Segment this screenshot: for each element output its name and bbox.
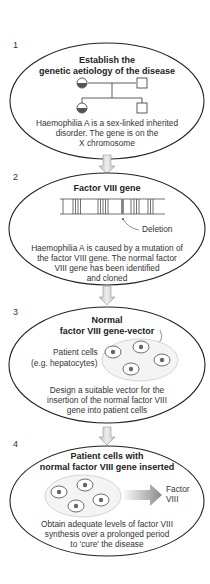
step-description-line: the factor VIII gene. The normal factor [37,253,177,263]
step-title-line: genetic aetiology of the disease [39,66,175,76]
down-arrow-icon [99,286,115,305]
product-label-line: Factor [166,484,190,494]
step-1: 1 Establish the genetic aetiology of the… [10,40,204,159]
down-arrow-icon [99,427,115,445]
step-description-line: Obtain adequate levels of factor VIII [41,519,173,529]
cells-label-line: Patient cells [53,347,98,357]
cells-label-line: (e.g. hepatocytes) [31,358,98,368]
step-3: 3 Normal factor VIII gene-vector Patient… [9,307,205,423]
step-description-line: Haemophilia A is caused by a mutation of [31,243,183,253]
step-description-line: gene into patient cells [67,405,147,415]
gene-therapy-flow-diagram: 1 Establish the genetic aetiology of the… [0,0,210,584]
step-description-line: disorder. The gene is on the [56,128,159,138]
patient-cells-icon [102,339,178,381]
step-description-line: Haemophilia A is a sex-linked inherited [36,118,178,128]
step-title-line: Patient cells with [70,451,143,461]
step-number: 4 [13,439,18,449]
step-description-line: insertion of the normal factor VIII [47,395,167,405]
step-4: 4 Patient cells with normal factor VIII … [10,439,204,556]
step-title-line: Establish the [79,55,135,65]
product-label-line: VIII [166,494,178,504]
deletion-region [121,199,124,214]
step-description-line: synthesis over a prolonged period [45,529,170,539]
step-number: 2 [13,172,18,182]
deletion-label: Deletion [142,224,173,234]
step-number: 3 [13,307,18,317]
transduced-cells-icon [45,475,121,517]
step-number: 1 [13,40,18,50]
step-title-line: Factor VIII gene [73,183,140,193]
step-title-line: Normal [91,315,122,325]
step-title-line: normal factor VIII gene inserted [40,462,175,472]
step-description-line: VIII gene has been identified [54,263,160,273]
step-description-line: Design a suitable vector for the [50,385,165,395]
step-description-line: and cloned [87,273,128,283]
step-2: 2 Factor VIII gene Deletio [9,172,205,285]
step-description-line: to 'cure' the disease [70,539,144,549]
step-description-line: X chromosome [79,138,135,148]
step-title-line: factor VIII gene-vector [60,326,155,336]
